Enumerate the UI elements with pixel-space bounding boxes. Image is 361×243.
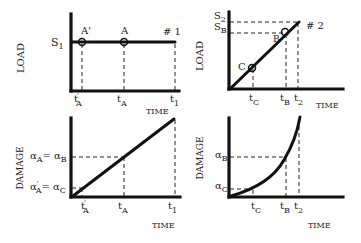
y-axis-label: DAMAGE [15,146,25,189]
time-label-tB: tB [280,200,290,215]
panel-bottom-left: DAMAGE αA=αB α'A=αC t'A tA t1 TIME [15,118,180,230]
curve-label-2: # 2 [306,20,324,31]
time-label-tC: tC [251,200,261,215]
level-label-alphaA-prime-eq-alphaC: α'A=αC [30,180,66,195]
point-label-C: C [238,61,246,72]
panel-bottom-right: DAMAGE αB αC tC tB t2 TIME [195,117,343,230]
point-label-B: B [273,34,280,44]
time-label-tA: tA [117,93,127,108]
level-label-alphaB: αB [215,149,228,163]
damage-accumulation-diagram: LOAD S1 A' A # 1 t'A tA t1 TIME LOAD [0,0,361,243]
time-label-t2: t2 [294,92,303,107]
point-label-A: A [120,25,129,36]
time-label-tA-prime: t'A [74,92,82,108]
y-axis-label: LOAD [15,43,26,73]
time-label-t1: t1 [168,200,177,215]
time-label-t2: t2 [294,200,303,215]
level-label-alphaA-eq-alphaB: αA=αB [30,150,67,164]
panel-top-right: LOAD S2 SB # 2 C B tC tB t2 T [194,10,343,110]
x-axis-label: TIME [316,101,339,110]
x-axis-label: TIME [308,221,331,230]
curve-label-1: # 1 [163,26,181,37]
point-label-A-prime: A' [80,25,91,36]
panel-top-left: LOAD S1 A' A # 1 t'A tA t1 TIME [15,14,181,116]
time-label-tA-prime: t'A [81,199,89,215]
time-label-tB: tB [280,92,290,107]
level-label-alphaC: αC [215,180,228,194]
x-axis-label: TIME [146,107,169,116]
y-axis-label: LOAD [194,41,205,71]
level-label-S1: S1 [51,36,64,51]
y-axis-label: DAMAGE [195,136,205,179]
x-axis-label: TIME [152,221,175,230]
time-label-t1: t1 [170,93,179,108]
time-label-tA: tA [118,200,128,215]
time-label-tC: tC [249,92,259,107]
